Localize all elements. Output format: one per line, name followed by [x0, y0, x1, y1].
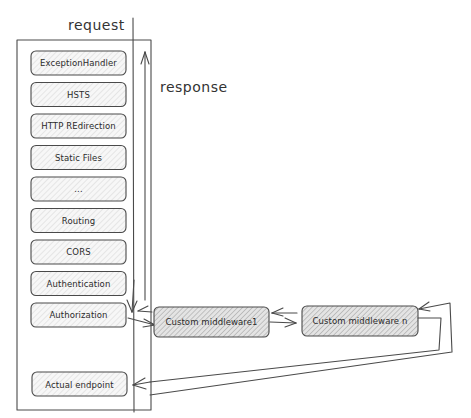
- pipeline-box-authentication[interactable]: Authentication: [31, 272, 126, 296]
- pipeline-box-label: HTTP REdirection: [41, 121, 116, 131]
- actual-endpoint[interactable]: Actual endpoint: [32, 372, 127, 396]
- custom-middleware-1[interactable]: Custom middleware1: [154, 307, 269, 337]
- pipeline-boxes: ExceptionHandlerHSTSHTTP REdirectionStat…: [31, 51, 126, 327]
- middleware-pipeline-diagram: request response ExceptionHandlerHSTSHTT…: [0, 0, 471, 418]
- custom-middleware-n-label: Custom middleware n: [313, 316, 408, 326]
- pipeline-box-label: ...: [74, 184, 82, 194]
- custom-middleware-n[interactable]: Custom middleware n: [302, 306, 418, 336]
- customn-to-custom1-arrow: [272, 308, 297, 316]
- pipeline-box-label: HSTS: [67, 90, 90, 100]
- custom1-to-pipeline-arrow: [138, 306, 152, 312]
- request-flow-arrow: [127, 280, 137, 312]
- custom1-to-customn-arrow: [270, 318, 296, 327]
- response-arrow: [141, 52, 149, 300]
- pipeline-box-label: Routing: [62, 216, 95, 226]
- pipeline-box-static-files[interactable]: Static Files: [31, 146, 126, 170]
- request-label: request: [68, 17, 125, 33]
- pipeline-box-exception-handler[interactable]: ExceptionHandler: [31, 51, 126, 75]
- pipeline-box-label: Authorization: [49, 310, 107, 320]
- pipeline-box-ellipsis[interactable]: ...: [31, 177, 126, 201]
- pipeline-box-hsts[interactable]: HSTS: [31, 83, 126, 107]
- pipeline-box-label: CORS: [66, 247, 90, 257]
- custom-middleware-1-label: Custom middleware1: [165, 317, 257, 327]
- actual-endpoint-label: Actual endpoint: [45, 380, 114, 390]
- pipeline-box-routing[interactable]: Routing: [31, 209, 126, 233]
- pipeline-box-cors[interactable]: CORS: [31, 240, 126, 264]
- response-label: response: [160, 79, 228, 95]
- request-line: [133, 18, 134, 412]
- endpoint-arrowhead: [133, 378, 150, 389]
- pipeline-box-label: Static Files: [55, 153, 102, 163]
- pipeline-box-label: ExceptionHandler: [40, 58, 117, 68]
- pipeline-box-http-redirection[interactable]: HTTP REdirection: [31, 114, 126, 138]
- pipeline-box-authorization[interactable]: Authorization: [31, 303, 126, 327]
- pipeline-box-label: Authentication: [47, 279, 111, 289]
